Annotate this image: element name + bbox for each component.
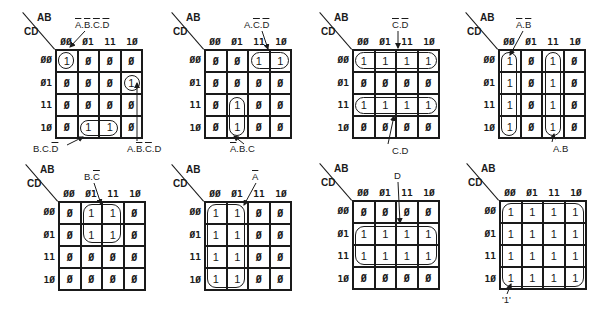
arrow-icon [244,183,256,205]
arrow-icon [67,137,83,145]
arrow-icon [70,31,85,47]
arrow-icon [510,31,523,55]
arrow-icon [507,284,511,294]
arrow-icon [234,136,244,144]
arrow-icon [94,183,101,204]
arrow-icon [398,182,400,223]
arrow-icon [262,31,268,49]
arrow-layer [0,0,609,320]
arrow-icon [388,116,394,144]
arrow-icon [552,134,554,142]
